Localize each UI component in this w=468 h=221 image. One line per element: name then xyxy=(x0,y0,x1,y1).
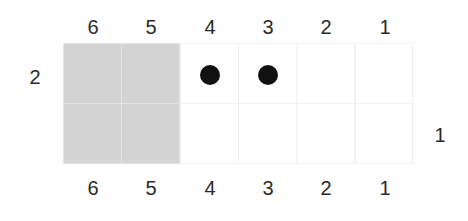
top-label-col-5: 5 xyxy=(136,17,166,37)
cell-r1-c1[interactable] xyxy=(355,103,413,164)
cell-r1-c2[interactable] xyxy=(296,103,355,164)
row-label-left: 2 xyxy=(20,67,50,87)
cell-r1-c4[interactable] xyxy=(180,103,239,164)
bottom-label-col-3: 3 xyxy=(253,178,283,198)
bottom-label-col-1: 1 xyxy=(370,178,400,198)
bottom-label-col-5: 5 xyxy=(136,178,166,198)
black-dot-piece-r2-c4[interactable] xyxy=(200,65,220,85)
cell-r2-c1[interactable] xyxy=(355,43,413,104)
top-label-col-4: 4 xyxy=(195,17,225,37)
bottom-label-col-6: 6 xyxy=(78,178,108,198)
cell-r1-c3[interactable] xyxy=(238,103,297,164)
top-label-col-6: 6 xyxy=(78,17,108,37)
cell-r2-c5[interactable] xyxy=(121,43,180,104)
cell-r1-c6[interactable] xyxy=(63,103,122,164)
row-label-right: 1 xyxy=(425,125,455,145)
bottom-label-col-4: 4 xyxy=(195,178,225,198)
black-dot-piece-r2-c3[interactable] xyxy=(258,65,278,85)
game-board-grid xyxy=(63,43,413,164)
top-label-col-3: 3 xyxy=(253,17,283,37)
cell-r2-c6[interactable] xyxy=(63,43,122,104)
top-label-col-2: 2 xyxy=(311,17,341,37)
cell-r1-c5[interactable] xyxy=(121,103,180,164)
top-label-col-1: 1 xyxy=(370,17,400,37)
bottom-label-col-2: 2 xyxy=(311,178,341,198)
cell-r2-c2[interactable] xyxy=(296,43,355,104)
